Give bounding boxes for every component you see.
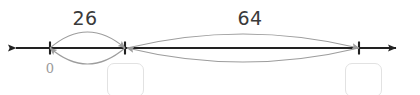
span-64-arc-backward [127,48,359,62]
answer-box-left[interactable] [107,63,144,95]
span-26-arc-backward [50,48,125,64]
span-26-arc-forward [50,32,125,48]
span-64-arc-forward [127,34,359,48]
answer-box-right[interactable] [345,63,382,95]
span-26-label: 26 [72,9,97,28]
span-64-label: 64 [237,9,262,28]
tick-zero-label: 0 [46,62,54,75]
number-line-worksheet: 2664 0 [0,0,420,95]
